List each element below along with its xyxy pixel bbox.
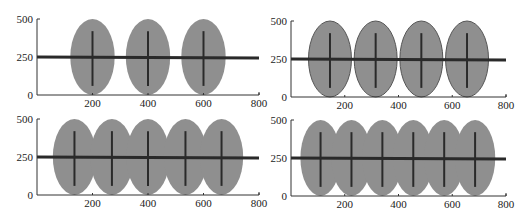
y-tick-label: 0 bbox=[282, 190, 288, 202]
y-tick-label: 0 bbox=[282, 91, 288, 103]
figure: 0250500200400600800 0250500200400600800 … bbox=[0, 0, 526, 221]
y-tick-label: 250 bbox=[271, 53, 288, 65]
x-tick-label: 400 bbox=[140, 97, 157, 109]
x-tick-label: 400 bbox=[390, 99, 407, 111]
panel-bottom-left: 0250500200400600800 bbox=[17, 113, 268, 209]
y-tick-label: 250 bbox=[271, 152, 288, 164]
y-tick-label: 250 bbox=[17, 51, 34, 63]
x-tick-label: 600 bbox=[195, 197, 212, 209]
x-tick-label: 600 bbox=[444, 99, 461, 111]
y-tick-label: 500 bbox=[271, 114, 288, 126]
x-tick-label: 200 bbox=[84, 197, 101, 209]
x-tick-label: 800 bbox=[251, 97, 268, 109]
y-tick-label: 500 bbox=[271, 15, 288, 27]
y-tick-label: 500 bbox=[17, 113, 34, 125]
y-tick-label: 0 bbox=[28, 89, 34, 101]
x-tick-label: 200 bbox=[337, 198, 354, 210]
x-tick-label: 200 bbox=[84, 97, 101, 109]
x-tick-label: 600 bbox=[195, 97, 212, 109]
x-tick-label: 600 bbox=[444, 198, 461, 210]
y-tick-label: 0 bbox=[28, 189, 34, 201]
x-tick-label: 800 bbox=[251, 197, 268, 209]
x-tick-label: 400 bbox=[140, 197, 157, 209]
x-tick-label: 800 bbox=[498, 198, 515, 210]
horizontal-line bbox=[37, 157, 259, 158]
panel-bottom-right: 0250500200400600800 bbox=[271, 114, 515, 210]
x-tick-label: 400 bbox=[390, 198, 407, 210]
y-tick-label: 500 bbox=[17, 13, 34, 25]
horizontal-line bbox=[291, 158, 506, 159]
panel-top-right: 0250500200400600800 bbox=[271, 15, 515, 111]
panel-top-left: 0250500200400600800 bbox=[17, 13, 268, 109]
y-tick-label: 250 bbox=[17, 151, 34, 163]
x-tick-label: 200 bbox=[337, 99, 354, 111]
horizontal-line bbox=[291, 59, 506, 60]
horizontal-line bbox=[37, 57, 259, 58]
x-tick-label: 800 bbox=[498, 99, 515, 111]
